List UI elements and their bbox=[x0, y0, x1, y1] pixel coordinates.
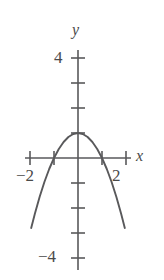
y-axis-tick-label-4: 4 bbox=[54, 49, 63, 66]
x-axis-tick-label-2: 2 bbox=[112, 167, 121, 184]
graph-figure: 4 −4 −2 2 y x bbox=[0, 0, 164, 280]
y-axis-tick-label-neg4: −4 bbox=[38, 248, 56, 265]
x-axis-label: x bbox=[136, 148, 143, 164]
coordinate-plot bbox=[0, 0, 164, 280]
y-axis-label: y bbox=[72, 22, 79, 38]
x-axis-tick-label-neg2: −2 bbox=[16, 167, 34, 184]
